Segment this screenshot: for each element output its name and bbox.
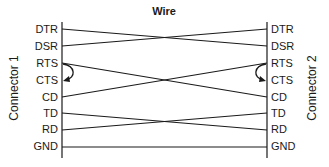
right-pin-label: DSR bbox=[271, 40, 294, 52]
right-pin-label: CD bbox=[271, 91, 287, 103]
diagram-title: Wire bbox=[152, 5, 176, 17]
right-loopback bbox=[256, 64, 266, 82]
left-pin-label: RTS bbox=[36, 57, 58, 69]
right-pin-label: GND bbox=[271, 140, 296, 152]
left-loopback bbox=[63, 64, 73, 82]
left-pin-label: RD bbox=[42, 123, 58, 135]
right-pin-label: RTS bbox=[271, 57, 293, 69]
arrowhead-icon bbox=[259, 76, 266, 82]
null-modem-diagram: Wire Connector 1 Connector 2 DTR DSR RTS… bbox=[0, 0, 329, 167]
right-pin-label: RD bbox=[271, 123, 287, 135]
right-pin-label: CTS bbox=[271, 74, 293, 86]
right-connector-label: Connector 2 bbox=[305, 55, 319, 121]
left-pin-labels: DTR DSR RTS CTS CD TD RD GND bbox=[34, 23, 59, 152]
left-pin-label: DTR bbox=[35, 23, 58, 35]
arrowhead-icon bbox=[63, 76, 70, 82]
left-pin-label: DSR bbox=[35, 40, 58, 52]
right-pin-labels: DTR DSR RTS CTS CD TD RD GND bbox=[271, 23, 296, 152]
left-pin-label: TD bbox=[43, 107, 58, 119]
left-pin-label: CTS bbox=[36, 74, 58, 86]
right-pin-label: DTR bbox=[271, 23, 294, 35]
left-pin-label: CD bbox=[42, 91, 58, 103]
right-pin-label: TD bbox=[271, 107, 286, 119]
left-connector-label: Connector 1 bbox=[7, 55, 21, 121]
left-pin-label: GND bbox=[34, 140, 59, 152]
wires bbox=[62, 29, 267, 147]
